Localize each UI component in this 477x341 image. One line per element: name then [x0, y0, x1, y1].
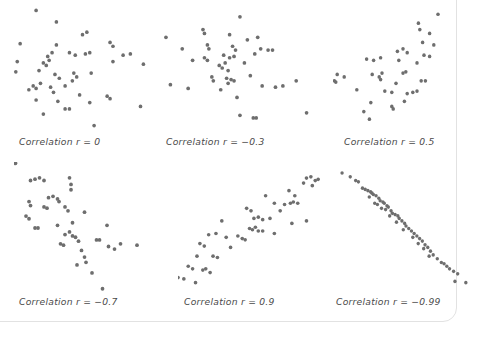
scatter-point	[195, 254, 199, 258]
scatter-point	[403, 99, 407, 103]
scatter-point	[376, 203, 379, 207]
scatter-svg-r-0-9	[178, 168, 324, 294]
figure-page: Correlation r = 0 Correlation r = −0.3 C…	[0, 0, 477, 341]
scatter-point	[432, 43, 436, 47]
scatter-point	[72, 71, 76, 75]
scatter-point	[464, 281, 467, 285]
scatter-point	[139, 105, 143, 109]
scatter-point	[69, 183, 73, 187]
scatter-point	[216, 256, 220, 260]
scatter-point	[84, 52, 88, 56]
scatter-point	[74, 235, 78, 239]
scatter-point	[369, 101, 373, 105]
scatter-point	[75, 263, 79, 267]
scatter-point	[390, 90, 394, 94]
scatter-point	[31, 84, 35, 88]
scatter-point	[107, 245, 111, 249]
scatter-point	[400, 219, 403, 223]
scatter-point	[206, 43, 210, 47]
scatter-point	[90, 271, 94, 275]
scatter-point	[432, 253, 435, 257]
scatter-point	[404, 70, 408, 74]
scatter-point	[69, 188, 73, 192]
scatter-point	[365, 57, 369, 61]
scatter-svg-r-neg-0-7	[14, 162, 164, 294]
scatter-point	[55, 20, 59, 24]
scatter-point	[29, 204, 33, 208]
panel-r-0: Correlation r = 0	[10, 4, 155, 154]
scatter-point	[62, 243, 66, 247]
scatter-point	[92, 124, 96, 128]
scatter-point	[436, 257, 439, 261]
scatter-point	[256, 229, 260, 233]
scatter-point	[453, 280, 456, 284]
scatter-point	[108, 97, 112, 101]
scatter-point	[47, 196, 51, 200]
scatter-point	[228, 56, 232, 60]
scatter-point	[33, 177, 37, 181]
scatter-point	[45, 206, 49, 210]
scatter-point	[111, 60, 115, 64]
scatter-point	[164, 35, 168, 39]
scatter-point	[394, 82, 398, 86]
scatter-point	[36, 226, 40, 230]
scatter-point	[39, 82, 43, 86]
scatter-point	[268, 217, 272, 221]
scatter-point	[436, 12, 440, 16]
scatter-point	[407, 227, 410, 231]
scatter-point	[422, 247, 425, 251]
scatter-point	[71, 79, 75, 83]
scatter-point	[379, 56, 383, 60]
scatter-point	[191, 58, 195, 62]
scatter-point	[46, 55, 50, 59]
scatter-point	[427, 254, 430, 258]
scatter-point	[203, 56, 207, 60]
scatter-point	[452, 269, 455, 273]
scatter-point	[261, 229, 265, 233]
scatter-point	[417, 242, 420, 246]
scatter-point	[309, 175, 313, 179]
scatter-point	[340, 171, 343, 175]
scatter-point	[38, 176, 42, 180]
scatter-point	[129, 52, 133, 56]
scatter-svg-r-0-5	[333, 4, 473, 132]
scatter-svg-r-neg-0-3	[163, 4, 311, 132]
scatter-point	[418, 237, 421, 241]
scatter-point	[77, 239, 81, 243]
scatter-point	[220, 66, 224, 70]
scatter-point	[264, 194, 268, 198]
scatter-point	[305, 111, 309, 115]
scatter-point	[294, 79, 298, 83]
scatter-point	[73, 53, 77, 57]
scatter-point	[261, 218, 265, 222]
scatter-point	[63, 205, 67, 209]
scatter-point	[202, 244, 206, 248]
scatter-point	[271, 48, 275, 52]
scatter-point	[34, 98, 38, 102]
scatter-point	[334, 80, 338, 84]
scatter-point	[63, 233, 67, 237]
scatter-point	[243, 61, 247, 65]
scatter-point	[238, 15, 242, 19]
panel-caption-r-0: Correlation r = 0	[19, 136, 155, 147]
plot-area-r-neg-0-7	[14, 162, 164, 294]
scatter-point	[232, 55, 236, 59]
plot-area-r-neg-0-3	[163, 4, 311, 132]
scatter-point	[232, 79, 236, 83]
scatter-point	[225, 76, 229, 80]
scatter-point	[111, 44, 115, 48]
scatter-point	[379, 78, 383, 82]
scatter-point	[180, 47, 184, 51]
scatter-point	[211, 79, 215, 83]
scatter-point	[248, 74, 252, 78]
scatter-point	[380, 71, 384, 75]
scatter-point	[198, 242, 202, 246]
scatter-point	[119, 242, 123, 246]
scatter-point	[191, 267, 195, 271]
scatter-point	[88, 51, 92, 55]
scatter-point	[254, 225, 258, 229]
scatter-point	[273, 232, 277, 236]
scatter-point	[231, 44, 235, 48]
scatter-point	[57, 200, 61, 204]
scatter-point	[178, 276, 180, 280]
